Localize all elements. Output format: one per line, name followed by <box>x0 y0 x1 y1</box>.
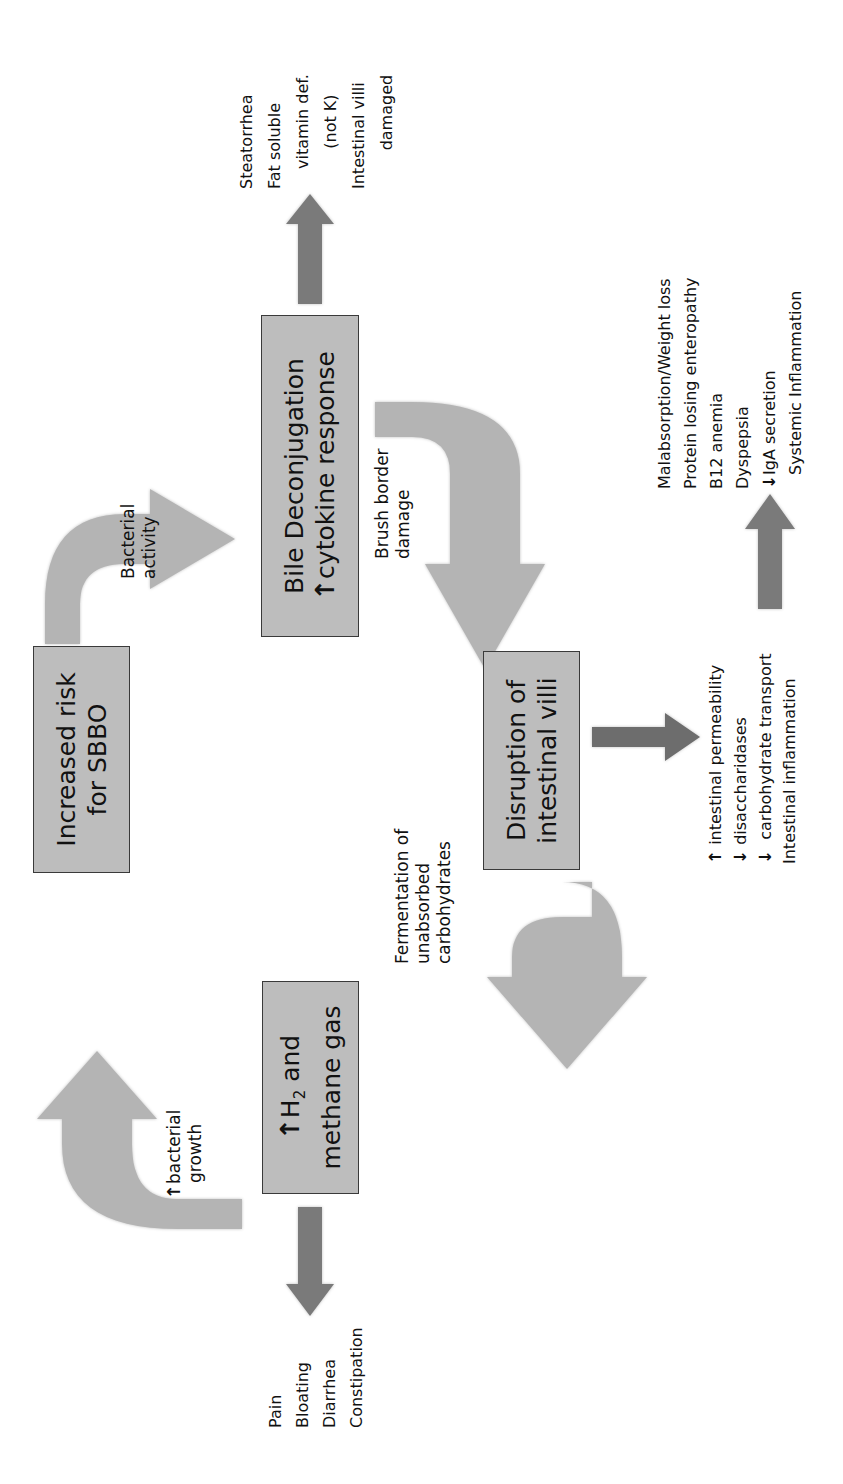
list-item: Intestinal inflammation <box>778 653 802 864</box>
up-arrow-icon: ↑ <box>705 850 725 864</box>
list-item: Malabsorption/Weight loss <box>652 277 678 489</box>
outcome-arrow-bile <box>286 194 334 304</box>
label-bacterial-activity: Bacterial activity <box>118 504 160 579</box>
h-symbol: H <box>276 1099 305 1118</box>
list-item: ↓ carbohydrate transport <box>753 653 778 864</box>
box-increased-risk-sbbo: Increased risk for SBBO <box>33 646 130 873</box>
label-line1: Fermentation of <box>392 829 413 964</box>
label-line2: growth <box>185 1110 206 1200</box>
label-line3: carbohydrates <box>434 829 455 964</box>
box-text-and: and <box>276 1035 305 1090</box>
label-line1-wrap: ↑bacterial <box>163 1110 185 1200</box>
list-bile-effects: Steatorrhea Fat soluble vitamin def. (no… <box>233 74 401 189</box>
list-item: ↓ disaccharidases <box>728 653 753 864</box>
list-item: Systemic Inflammation <box>783 277 809 489</box>
list-item: vitamin def. <box>289 74 317 189</box>
curved-arrow-fermentation <box>487 844 647 1074</box>
list-item: B12 anemia <box>704 277 730 489</box>
down-arrow-icon: ↓ <box>759 475 779 489</box>
box-text-line1: Bile Deconjugation <box>279 358 310 594</box>
list-systemic-effects: Malabsorption/Weight loss Protein losing… <box>652 277 809 489</box>
label-line2: unabsorbed <box>413 829 434 964</box>
outcome-arrow-villi <box>592 713 700 761</box>
item-text: carbohydrate transport <box>756 653 775 839</box>
box-text-line2: cytokine response <box>311 351 340 579</box>
list-item: Intestinal villi <box>345 74 373 189</box>
list-item: ↓IgA secretion <box>756 277 783 489</box>
box-h2-methane: ↑H2 and methane gas <box>262 981 359 1194</box>
box-text-line1: Disruption of <box>501 680 532 841</box>
box-text-line2: for SBBO <box>82 704 113 816</box>
item-text: intestinal permeability <box>706 665 725 845</box>
box-disruption-villi: Disruption of intestinal villi <box>483 651 580 870</box>
box-text-line2: methane gas <box>316 1005 347 1169</box>
label-line1: Brush border <box>372 448 393 559</box>
label-line1: bacterial <box>164 1110 184 1185</box>
box-text-line1: Increased risk <box>51 672 82 846</box>
list-item: Bloating <box>289 1327 316 1428</box>
box-text-line1-wrap: ↑H2 and <box>275 1035 316 1140</box>
list-item: Steatorrhea <box>233 74 261 189</box>
down-arrow-icon: ↓ <box>755 850 775 864</box>
label-line2: damage <box>393 448 414 559</box>
list-item: ↑ intestinal permeability <box>703 653 728 864</box>
label-brush-border-damage: Brush border damage <box>372 448 414 559</box>
sbbo-cycle-diagram: Increased risk for SBBO Bile Deconjugati… <box>0 0 843 1484</box>
subscript-2: 2 <box>291 1090 309 1100</box>
list-villi-effects: ↑ intestinal permeability ↓ disaccharida… <box>703 653 802 864</box>
box-text-line2-wrap: ↑cytokine response <box>310 351 341 601</box>
list-item: Pain <box>262 1327 289 1428</box>
down-arrow-icon: ↓ <box>730 850 750 864</box>
up-arrow-icon: ↑ <box>275 1118 305 1140</box>
item-text: disaccharidases <box>731 717 750 845</box>
list-item: (not K) <box>317 74 345 189</box>
list-item: Fat soluble <box>261 74 289 189</box>
list-item: Constipation <box>343 1327 370 1428</box>
outcome-arrow-gas <box>286 1207 334 1316</box>
item-text: Intestinal inflammation <box>780 678 799 864</box>
list-item: Dyspepsia <box>730 277 756 489</box>
list-gas-symptoms: Pain Bloating Diarrhea Constipation <box>262 1327 370 1428</box>
label-line2: activity <box>139 504 160 579</box>
box-text-line2: intestinal villi <box>532 677 563 843</box>
label-line1: Bacterial <box>118 504 139 579</box>
list-item: damaged <box>373 74 401 189</box>
label-fermentation: Fermentation of unabsorbed carbohydrates <box>392 829 455 964</box>
outcome-arrow-systemic <box>745 494 795 609</box>
list-item: Protein losing enteropathy <box>678 277 704 489</box>
list-item: Diarrhea <box>316 1327 343 1428</box>
curved-arrow-bacterial-growth <box>37 1051 242 1259</box>
label-bacterial-growth: ↑bacterial growth <box>163 1110 206 1200</box>
item-text: IgA secretion <box>760 370 779 475</box>
up-arrow-icon: ↑ <box>163 1184 184 1199</box>
box-bile-deconjugation: Bile Deconjugation ↑cytokine response <box>261 315 359 637</box>
up-arrow-icon: ↑ <box>310 579 340 601</box>
